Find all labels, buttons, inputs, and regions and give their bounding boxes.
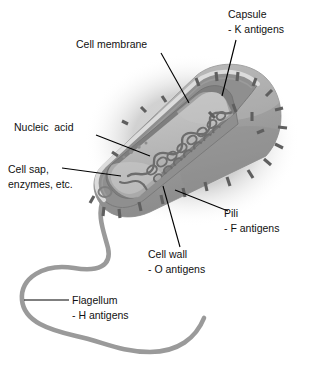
label-pili-line2: - F antigens (224, 222, 279, 234)
label-capsule-line1: Capsule (228, 8, 267, 20)
label-flagellum: Flagellum - H antigens (72, 294, 129, 321)
bacterium-diagram-svg: Capsule - K antigens Cell membrane Nucle… (0, 0, 309, 365)
label-cell-wall: Cell wall - O antigens (148, 248, 205, 275)
label-capsule-line2: - K antigens (228, 23, 284, 35)
figure-canvas: Capsule - K antigens Cell membrane Nucle… (0, 0, 309, 365)
label-cell-sap-line1: Cell sap, (8, 163, 49, 175)
label-cell-membrane-line1: Cell membrane (76, 38, 147, 50)
label-capsule: Capsule - K antigens (228, 8, 284, 35)
label-nucleic-acid-line1: Nucleic acid (14, 121, 74, 133)
label-cell-sap-enzymes: Cell sap, enzymes, etc. (8, 163, 73, 190)
label-cell-membrane: Cell membrane (76, 38, 147, 50)
label-nucleic-acid: Nucleic acid (14, 121, 74, 133)
label-flagellum-line2: - H antigens (72, 309, 129, 321)
label-flagellum-line1: Flagellum (72, 294, 118, 306)
label-pili-line1: Pili (224, 207, 238, 219)
label-cell-sap-line2: enzymes, etc. (8, 178, 73, 190)
label-cell-wall-line2: - O antigens (148, 263, 205, 275)
label-cell-wall-line1: Cell wall (148, 248, 187, 260)
